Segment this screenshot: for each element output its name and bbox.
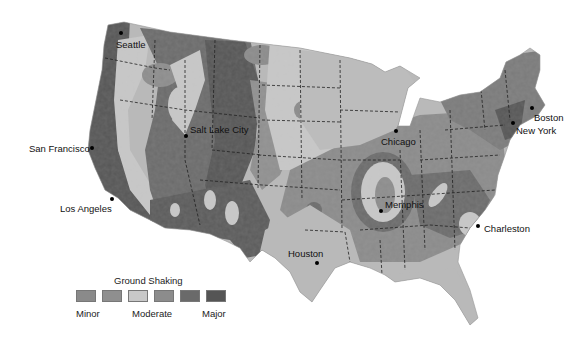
city-marker-salt-lake-city[interactable] xyxy=(184,134,188,138)
city-marker-memphis[interactable] xyxy=(379,209,383,213)
city-label-boston: Boston xyxy=(534,113,564,123)
city-label-seattle: Seattle xyxy=(116,40,146,50)
city-marker-boston[interactable] xyxy=(530,106,534,110)
legend-label-major: Major xyxy=(202,308,226,319)
city-marker-chicago[interactable] xyxy=(394,129,398,133)
legend-label-moderate: Moderate xyxy=(132,308,172,319)
city-label-new-york: New York xyxy=(516,126,556,136)
city-label-salt-lake-city: Salt Lake City xyxy=(190,125,249,135)
city-marker-seattle[interactable] xyxy=(119,31,123,35)
city-label-houston: Houston xyxy=(288,249,323,259)
legend-swatch-1-minor xyxy=(76,290,96,302)
city-label-memphis: Memphis xyxy=(385,200,424,210)
city-label-los-angeles: Los Angeles xyxy=(60,204,112,214)
legend-swatch-2 xyxy=(102,290,122,302)
city-label-chicago: Chicago xyxy=(381,137,416,147)
legend-swatch-3-moderate xyxy=(128,290,148,302)
city-marker-houston[interactable] xyxy=(315,261,319,265)
legend-swatch-6-major xyxy=(206,290,226,302)
city-label-san-francisco: San Francisco xyxy=(29,144,90,154)
city-marker-new-york[interactable] xyxy=(511,121,515,125)
shaking-zones xyxy=(0,0,587,338)
us-ground-shaking-map xyxy=(0,0,587,338)
legend-swatches xyxy=(76,290,226,302)
city-marker-charleston[interactable] xyxy=(476,224,480,228)
legend-title: Ground Shaking xyxy=(114,275,183,286)
legend-swatch-5 xyxy=(180,290,200,302)
city-marker-san-francisco[interactable] xyxy=(90,146,94,150)
legend-label-minor: Minor xyxy=(76,308,100,319)
city-marker-los-angeles[interactable] xyxy=(110,197,114,201)
city-label-charleston: Charleston xyxy=(484,224,530,234)
legend-swatch-4 xyxy=(154,290,174,302)
